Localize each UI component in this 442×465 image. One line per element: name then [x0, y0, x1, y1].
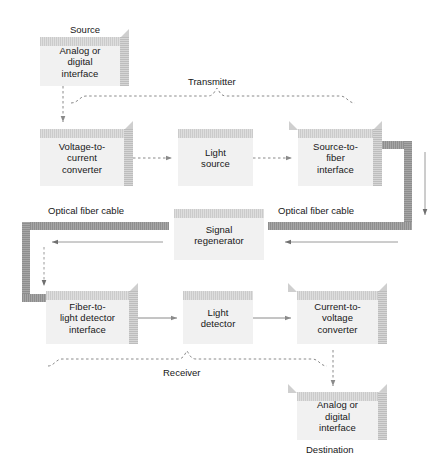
- box-fiber-to-light-detector-interface-label: Fiber-to- light detector interface: [58, 301, 117, 336]
- box-voltage-to-current-converter: Voltage-to- current converter: [40, 130, 124, 186]
- box-fiber-to-light-detector-interface: Fiber-to- light detector interface: [46, 292, 129, 344]
- cable-segment-middle-left-horizontal: [22, 222, 169, 230]
- box-source-interface-label: Analog or digital interface: [57, 45, 102, 80]
- cable-segment-left-vertical: [22, 222, 30, 302]
- box-current-to-voltage-converter: Current-to- voltage converter: [297, 292, 378, 344]
- box-signal-regenerator: Signal regenerator: [174, 210, 264, 260]
- box-current-to-voltage-converter-label: Current-to- voltage converter: [312, 301, 362, 336]
- cable-segment-bottom-left-horizontal: [22, 294, 46, 302]
- box-destination-interface: Analog or digital interface: [297, 393, 378, 440]
- caption-optical-fiber-cable-right: Optical fiber cable: [278, 205, 354, 216]
- box-light-source: Light source: [178, 130, 253, 186]
- caption-source: Source: [70, 24, 100, 35]
- caption-optical-fiber-cable-left: Optical fiber cable: [48, 205, 124, 216]
- caption-receiver: Receiver: [163, 367, 201, 378]
- cable-segment-middle-right-horizontal: [268, 222, 412, 230]
- caption-transmitter: Transmitter: [188, 76, 236, 87]
- box-source-to-fiber-interface-label: Source-to- fiber interface: [311, 141, 360, 176]
- caption-destination: Destination: [306, 444, 354, 455]
- box-voltage-to-current-converter-label: Voltage-to- current converter: [57, 141, 108, 176]
- box-light-detector-label: Light detector: [199, 307, 238, 330]
- box-destination-interface-label: Analog or digital interface: [315, 399, 360, 434]
- box-source-to-fiber-interface: Source-to- fiber interface: [298, 130, 373, 186]
- box-light-detector: Light detector: [183, 292, 253, 344]
- receiver-bracket: [48, 351, 327, 366]
- cable-segment-right-vertical: [404, 141, 412, 222]
- box-signal-regenerator-label: Signal regenerator: [192, 224, 246, 247]
- box-light-source-label: Light source: [199, 147, 232, 170]
- box-source-interface: Analog or digital interface: [40, 38, 120, 86]
- fiber-optic-system-diagram: Source Transmitter Optical fiber cable O…: [0, 0, 442, 465]
- transmitter-bracket: [71, 88, 355, 103]
